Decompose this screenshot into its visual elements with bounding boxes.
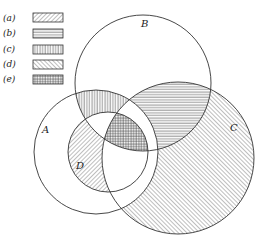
legend-item-d: (d)	[3, 59, 63, 69]
label-c: C	[230, 122, 238, 133]
legend-item-c: (c)	[3, 44, 63, 54]
label-a: A	[41, 124, 49, 135]
legend-key: (a)	[3, 13, 16, 23]
legend: (a) (b) (c) (d) (e)	[3, 13, 63, 84]
label-b: B	[140, 18, 148, 29]
legend-item-b: (b)	[3, 28, 63, 38]
legend-key: (c)	[3, 44, 16, 54]
legend-item-e: (e)	[3, 74, 63, 84]
label-d: D	[75, 160, 84, 171]
legend-key: (d)	[3, 59, 16, 69]
venn-diagram: (a) (b) (c) (d) (e)	[0, 0, 262, 241]
legend-item-a: (a)	[3, 13, 63, 23]
legend-key: (e)	[3, 74, 16, 84]
legend-key: (b)	[3, 28, 16, 38]
